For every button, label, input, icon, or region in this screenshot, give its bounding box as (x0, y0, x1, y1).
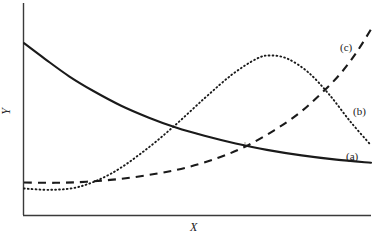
curve-label-b: (b) (353, 105, 366, 117)
curve-label-a: (a) (346, 150, 358, 162)
x-axis-title: X (190, 220, 197, 235)
figure-container: Y X (c) (b) (a) (0, 0, 378, 237)
curve-label-c: (c) (340, 41, 352, 53)
y-axis-title: Y (0, 108, 14, 115)
curve-b-dotted (24, 55, 371, 189)
curve-a-solid (24, 43, 371, 163)
curve-c-dashed (24, 29, 371, 182)
line-chart-plot (0, 0, 378, 237)
scan-artifact-speck (244, 142, 246, 144)
